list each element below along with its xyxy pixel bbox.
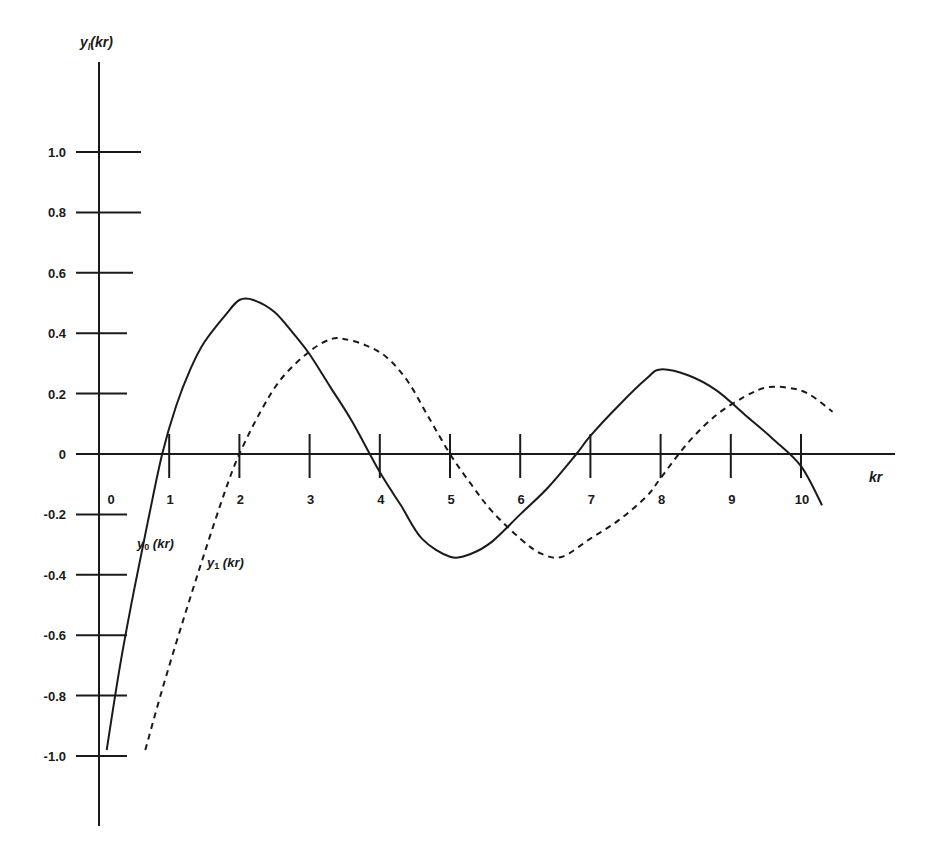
label-y0: y0 (kr) bbox=[136, 536, 174, 552]
x-tick-label: 9 bbox=[728, 492, 735, 507]
y-tick-label: 0 bbox=[59, 447, 66, 462]
y-tick-label: -1.0 bbox=[44, 749, 66, 764]
x-axis-title: kr bbox=[869, 469, 884, 485]
y-axis-title: yl(kr) bbox=[79, 34, 113, 52]
label-y1: y1 (kr) bbox=[206, 555, 244, 571]
x-tick-label: 6 bbox=[518, 492, 525, 507]
y-tick-label: 1.0 bbox=[48, 145, 66, 160]
x-tick-label: 7 bbox=[588, 492, 595, 507]
y-tick-label: -0.8 bbox=[44, 689, 66, 704]
y-tick-label: 0.6 bbox=[48, 266, 66, 281]
x-tick-label: 5 bbox=[447, 492, 454, 507]
y-tick-label: -0.2 bbox=[44, 507, 66, 522]
y-tick-label: 0.8 bbox=[48, 205, 66, 220]
x-tick-label: 3 bbox=[307, 492, 314, 507]
y-tick-label: 0.4 bbox=[48, 326, 67, 341]
x-tick-label: 10 bbox=[795, 492, 809, 507]
x-tick-label: 4 bbox=[377, 492, 385, 507]
x-ticks: 012345678910 bbox=[99, 430, 809, 507]
y-tick-label: -0.6 bbox=[44, 628, 66, 643]
x-tick-label: 2 bbox=[237, 492, 244, 507]
bessel-y-chart: 1.00.80.60.40.20-0.2-0.4-0.6-0.8-1.0 012… bbox=[0, 0, 930, 865]
x-tick-label: 8 bbox=[658, 492, 665, 507]
y-tick-label: -0.4 bbox=[44, 568, 67, 583]
figure-caption-cut-off bbox=[0, 855, 930, 865]
x-tick-label: 1 bbox=[167, 492, 174, 507]
x-tick-label: 0 bbox=[107, 492, 114, 507]
y-tick-label: 0.2 bbox=[48, 387, 66, 402]
